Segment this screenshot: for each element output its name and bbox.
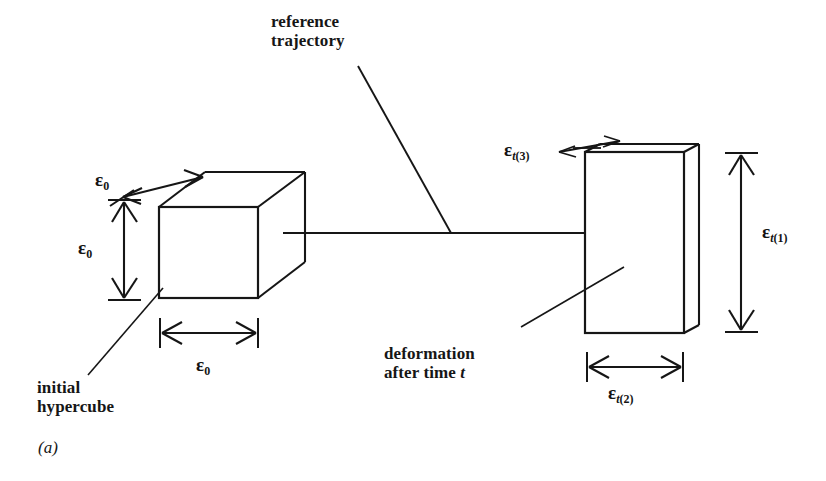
epsilon-glyph: ε [78,237,86,258]
cube-edge-bottom-right [258,262,305,298]
epsilon-initial-depth-symbol: ε0 [95,170,109,196]
depth-arrowhead-right-a [184,170,203,177]
epsilon-glyph: ε [95,169,103,190]
cube-edge-top-right [258,172,305,207]
epsilon-deformed-height-subscript: t(1) [770,231,787,245]
epsilon-initial-height-symbol: ε0 [78,238,92,264]
cube-front-face [159,207,258,298]
deformed-edge-top-right [684,144,699,152]
reference-trajectory-label: reference trajectory [271,12,345,50]
epsilon-initial-width-symbol: ε0 [196,355,210,381]
epsilon-deformed-depth-symbol: εt(3) [504,140,529,166]
figure-container: reference trajectory initial hypercube d… [0,0,826,481]
deformation-label: deformation after time t [384,344,475,382]
initial-hypercube-label: initial hypercube [37,378,114,416]
deformed-width-arrowhead-right-a [661,356,681,367]
deformed-edge-bottom-right [684,325,699,333]
deformation-time-variable: t [460,363,465,382]
height-arrowhead-bottom-a [112,278,124,298]
deformed-front-face [585,152,684,333]
deformed-height-arrowhead-bottom-a [729,310,741,330]
width-arrowhead-left-b [162,333,182,344]
deformed-depth-arrowhead-left-b [559,152,576,157]
deformed-height-arrowhead-bottom-b [741,310,754,330]
epsilon-glyph: ε [762,221,770,242]
figure-line-art [0,0,826,481]
deformed-depth-arrowhead-right-a [604,136,620,141]
height-arrowhead-bottom-b [124,278,137,298]
depth-dimension-line [123,177,203,197]
deformed-width-arrowhead-left-b [589,367,609,378]
deformed-height-arrowhead-top-b [741,155,754,175]
epsilon-deformed-depth-subscript: t(3) [512,149,529,163]
height-arrowhead-top-b [124,202,137,222]
deformation-leader [521,267,624,327]
width-arrowhead-left-a [162,322,182,333]
epsilon-glyph: ε [504,139,512,160]
deformed-width-arrowhead-left-a [589,356,609,367]
width-arrowhead-right-a [236,322,256,333]
epsilon-glyph: ε [608,382,616,403]
width-arrowhead-right-b [236,333,256,344]
epsilon-initial-depth-subscript: 0 [103,179,109,193]
deformed-width-arrowhead-right-b [661,367,681,378]
figure-caption: (a) [38,438,58,458]
deformed-height-arrowhead-top-a [729,155,741,175]
epsilon-initial-height-subscript: 0 [86,247,92,261]
height-arrowhead-top-a [112,202,124,222]
reference-trajectory-leader [358,66,451,233]
epsilon-glyph: ε [196,354,204,375]
epsilon-deformed-height-symbol: εt(1) [762,222,787,248]
epsilon-deformed-width-subscript: t(2) [616,392,633,406]
initial-hypercube-leader [88,288,163,375]
epsilon-deformed-width-symbol: εt(2) [608,383,633,409]
epsilon-initial-width-subscript: 0 [204,364,210,378]
